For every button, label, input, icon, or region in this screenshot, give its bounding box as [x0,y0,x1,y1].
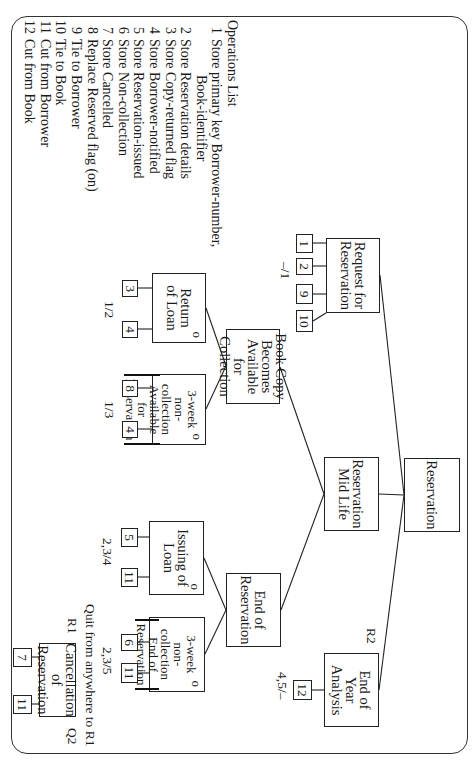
op-leaf: 4 [122,321,138,338]
operation-item: 8Replace Reserved flag (on) [84,20,100,247]
op-text: Tie to Borrower [69,39,84,129]
op-text: Store Non-collection [116,39,131,156]
op-num: 4 [146,20,162,34]
op-num: 9 [68,20,84,34]
operation-item: 9Tie to Borrower [68,20,84,247]
op-text: Store Cancelled [100,39,115,128]
op-num: 12 [22,20,38,34]
op-leaf: 10 [296,310,313,332]
node-reservation: Reservation [404,458,460,532]
node-label: End of Year Analysis [331,654,373,726]
op-leaf: 12 [293,680,312,700]
node-label: Reservation [425,460,439,529]
op-text: Replace Reserved flag (on) [85,39,100,192]
operation-item: 4Store Borrower-notified [146,20,162,247]
op-num: 10 [53,20,69,34]
op-num: 2 [178,20,194,34]
selection-marker: o [190,681,203,688]
op-leaf: 8 [122,380,138,397]
selection-marker: o [191,332,204,339]
op-leaf: 1 [296,234,313,253]
marker-r2: R2 [364,628,378,644]
op-text: Store primary key Borrower-number, [209,39,224,247]
operation-item: 5Store Reservation-issued [131,20,147,247]
state-label-available: 1/3 [102,401,116,418]
operation-item: 7Store Cancelled [100,20,116,247]
op-text: Cut from Borrower [38,39,53,147]
node-reservation-mid-life: Reservation Mid Life [324,457,379,531]
selection-marker: o [191,434,204,441]
op-num: 11 [37,20,53,34]
operation-item: 3Store Copy-returned flag [162,20,178,247]
state-label-year: 4,5/– [275,672,289,699]
op-num: 8 [84,20,100,34]
node-return-of-loan: Return of Loan o [152,273,206,343]
node-label: Issuing of Loan [163,529,191,587]
node-issuing-of-loan: Issuing of Loan o [149,521,204,595]
op-leaf: 2 [296,258,313,275]
marker-r1: R1 [65,618,79,634]
diagram-canvas: Reservation Request for Reservation Rese… [0,0,476,766]
node-label: Request for Reservation [339,241,367,310]
op-num: 6 [115,20,131,34]
state-label-request: –/1 [278,262,292,279]
node-end-of-reservation: End of Reservation [226,573,281,647]
node-label: Cancellation of Reservation [37,643,79,716]
op-num: 1 [209,20,225,34]
op-text: Store Copy-returned flag [163,39,178,179]
operation-item: 11Cut from Borrower [37,20,53,247]
op-leaf: 7 [13,648,32,667]
node-non-collection-available: 3-week non-collection Available for Rese… [152,374,206,445]
op-leaf: 11 [121,663,138,683]
op-leaf: 5 [121,528,138,547]
operation-item: 10Tie to Book [53,20,69,247]
op-leaf: 11 [121,568,138,587]
op-leaf: 6 [121,634,138,651]
node-end-of-year-analysis: End of Year Analysis [324,653,379,727]
node-label: Return of Loan [165,285,193,331]
op-leaf: 3 [122,280,138,297]
operations-list: Operations List 1Store primary key Borro… [22,20,240,247]
op-text: Tie to Book [53,39,68,105]
marker-q2: Q2 [65,728,79,745]
state-label-end: 2,3/5 [100,647,114,674]
bracket-line1: Available for [136,378,160,440]
node-label: Book Copy Becomes Available for Collecti… [218,330,288,403]
state-bracket: End of Reservation [135,619,159,689]
op-leaf: 11 [13,695,32,714]
node-label-line2: non-collection [159,618,185,691]
node-label: End of Reservation [240,575,268,644]
node-book-copy-available: Book Copy Becomes Available for Collecti… [226,329,280,404]
op-num: 5 [131,20,147,34]
operation-item: 1Store primary key Borrower-number, [209,20,225,247]
quit-note: Quit from anywhere to R1 [83,604,97,746]
op-leaf: 4 [122,421,138,438]
node-label-line2: non-collection [160,374,186,444]
operation-item: 2Store Reservation details [178,20,194,247]
op-num: 7 [100,20,116,34]
op-text: Store Borrower-notified [147,39,162,174]
state-label-return: 1/2 [102,301,116,318]
node-non-collection-end: 3-week non-collection End of Reservation… [149,617,205,692]
op-text: Store Reservation-issued [131,39,146,179]
operation-item-continuation: Book-identifier [193,20,209,247]
node-cancellation-of-reservation: Cancellation of Reservation [39,643,76,717]
operation-item: 12Cut from Book [22,20,38,247]
operations-list-title: Operations List [224,20,240,247]
node-request-for-reservation: Request for Reservation [326,238,380,313]
operation-item: 6Store Non-collection [115,20,131,247]
node-label: Reservation Mid Life [338,459,366,528]
state-label-issuing: 2,3/4 [100,538,114,565]
op-text: Cut from Book [22,39,37,124]
op-text: Store Reservation details [178,39,193,179]
selection-marker: o [189,584,202,591]
op-num: 3 [162,20,178,34]
op-leaf: 9 [296,284,313,304]
